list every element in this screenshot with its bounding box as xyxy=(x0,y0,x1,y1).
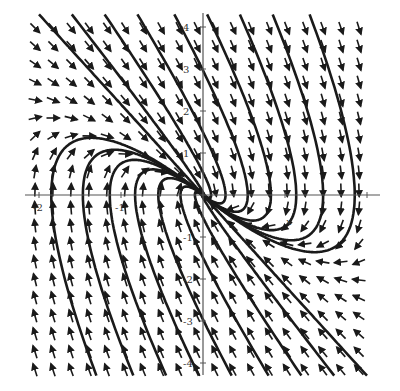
field-arrow xyxy=(267,94,271,106)
field-arrow xyxy=(123,328,128,340)
field-arrow xyxy=(141,346,146,358)
field-arrow xyxy=(33,346,37,358)
field-arrow xyxy=(250,166,253,179)
field-arrow xyxy=(354,347,363,356)
field-arrow xyxy=(106,202,107,215)
field-arrow xyxy=(339,220,344,232)
field-arrow xyxy=(249,22,254,34)
field-arrow xyxy=(48,41,57,50)
field-arrow xyxy=(337,365,345,375)
field-arrow xyxy=(286,202,289,215)
field-arrow xyxy=(358,130,361,143)
field-arrow xyxy=(51,346,55,358)
field-arrow xyxy=(318,311,327,320)
field-arrow xyxy=(304,166,306,179)
field-arrow xyxy=(69,166,72,179)
field-arrow xyxy=(50,148,56,159)
field-arrow xyxy=(248,328,255,339)
field-arrow xyxy=(122,23,129,34)
field-arrow xyxy=(230,40,235,52)
field-arrow xyxy=(212,256,218,267)
field-arrow xyxy=(84,150,94,159)
field-arrow xyxy=(123,364,128,376)
field-arrow xyxy=(301,347,309,357)
field-arrow xyxy=(299,259,311,264)
field-arrow xyxy=(265,311,272,322)
field-arrow xyxy=(176,346,181,358)
field-arrow xyxy=(102,114,112,122)
field-arrow xyxy=(106,220,108,233)
field-arrow xyxy=(142,202,144,215)
field-arrow xyxy=(176,310,181,322)
field-arrow xyxy=(194,328,200,340)
field-arrow xyxy=(30,60,41,67)
field-arrow xyxy=(159,310,164,322)
field-arrow xyxy=(34,220,36,233)
y-tick-label: 1 xyxy=(183,148,189,159)
field-arrow xyxy=(33,328,37,340)
field-arrow xyxy=(158,76,165,87)
field-arrow xyxy=(320,220,326,232)
field-arrow xyxy=(177,238,182,250)
field-arrow xyxy=(303,130,306,143)
field-arrow xyxy=(285,76,289,88)
field-arrow xyxy=(247,275,254,286)
field-arrow xyxy=(70,256,73,269)
field-arrow xyxy=(212,310,218,322)
field-arrow xyxy=(335,261,348,262)
field-arrow xyxy=(33,364,37,376)
field-arrow xyxy=(32,148,37,160)
field-arrow xyxy=(285,58,289,70)
field-arrow xyxy=(283,329,291,340)
field-arrow xyxy=(301,221,309,232)
field-arrow xyxy=(230,346,236,357)
field-arrow xyxy=(212,292,218,304)
trajectory-curve xyxy=(39,14,203,194)
field-arrow xyxy=(176,112,183,123)
field-arrow xyxy=(300,293,309,302)
field-arrow xyxy=(105,256,109,269)
field-arrow xyxy=(248,311,255,322)
field-arrow xyxy=(194,256,199,268)
field-arrow xyxy=(48,133,59,140)
field-arrow xyxy=(336,295,347,302)
field-arrow xyxy=(159,328,164,340)
field-arrow xyxy=(286,148,289,161)
field-arrow xyxy=(249,58,254,70)
field-arrow xyxy=(317,277,328,283)
field-arrow xyxy=(357,58,361,70)
field-arrow xyxy=(69,274,72,287)
field-arrow xyxy=(267,112,271,124)
field-arrow xyxy=(357,94,360,107)
field-arrow xyxy=(318,294,328,302)
field-arrow xyxy=(33,292,36,305)
field-arrow xyxy=(51,328,55,340)
field-arrow xyxy=(124,220,127,233)
field-arrow xyxy=(29,117,42,120)
field-arrow xyxy=(212,76,217,88)
field-arrow xyxy=(282,258,292,266)
field-arrow xyxy=(48,78,59,85)
field-arrow xyxy=(87,292,91,304)
field-arrow xyxy=(358,112,361,125)
trajectory-curve xyxy=(72,14,204,195)
field-arrow xyxy=(176,40,182,51)
field-arrow xyxy=(353,260,365,265)
field-arrow xyxy=(267,130,271,142)
field-arrow xyxy=(194,40,200,52)
field-arrow xyxy=(51,310,55,322)
field-arrow xyxy=(105,274,109,286)
field-arrow xyxy=(249,148,253,160)
field-arrow xyxy=(340,148,342,161)
field-arrow xyxy=(177,202,180,215)
trajectory-curve xyxy=(110,160,203,376)
field-arrow xyxy=(176,292,181,304)
field-arrow xyxy=(339,40,343,52)
field-arrow xyxy=(29,99,42,101)
field-arrow xyxy=(300,276,310,284)
field-arrow xyxy=(87,328,91,340)
trajectory-curve xyxy=(203,14,354,252)
field-arrow xyxy=(336,312,346,320)
field-arrow xyxy=(322,148,324,161)
field-arrow xyxy=(285,22,290,34)
